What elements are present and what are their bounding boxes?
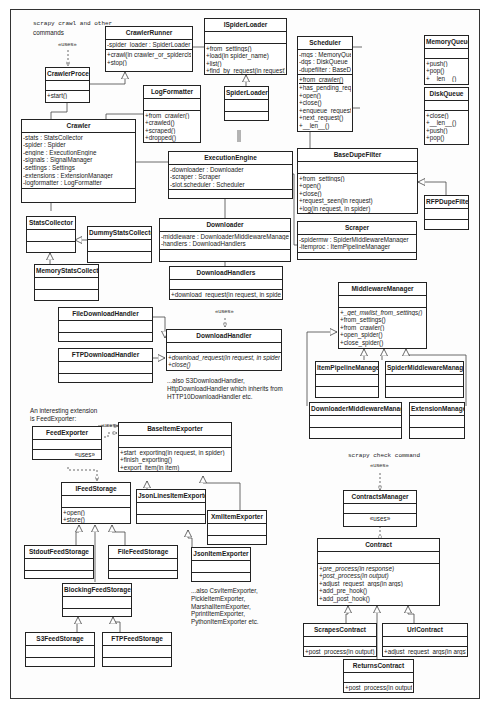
class-ispider-loader[interactable]: ISpiderLoader +from_settings() +load(in … [204, 18, 287, 75]
class-scraper[interactable]: Scraper -spidermw : SpiderMiddlewareMana… [297, 221, 417, 260]
class-contract[interactable]: Contract +pre_process(in response) +post… [317, 538, 440, 606]
class-execution-engine[interactable]: ExecutionEngine -downloader : Downloader… [168, 151, 293, 199]
class-crawler-process[interactable]: CrawlerProcess +start() [45, 67, 90, 103]
class-base-dupe-filter[interactable]: BaseDupeFilter +from_settings() +open() … [297, 148, 418, 214]
stereotype-uses-top: «uses» [100, 422, 119, 428]
op-load: +load(in spider_name) [206, 52, 285, 60]
note-feed-exporter: An interesting extension is FeedExporter… [30, 407, 97, 423]
class-file-download-handler[interactable]: FileDownloadHandler [58, 307, 153, 342]
note-crawl-command: scrapy crawl and other [33, 20, 112, 28]
class-spider-loader[interactable]: SpiderLoader [224, 86, 269, 121]
class-scrapes-contract[interactable]: ScrapesContract +post_process(in output) [303, 623, 377, 657]
class-dummy-stats-collector[interactable]: DummyStatsCollector [87, 226, 152, 263]
note-crawl-commands-2: commands [33, 29, 64, 37]
class-json-lines-item-exporter[interactable]: JsonLinesItemExporter [136, 489, 206, 524]
class-ftp-download-handler[interactable]: FTPDownloadHandler [58, 348, 153, 383]
class-log-formatter[interactable]: LogFormatter +from_crawler() +crawled() … [143, 85, 201, 143]
class-stats-collector[interactable]: StatsCollector [26, 216, 76, 253]
class-crawler[interactable]: Crawler -stats : StatsCollector -spider … [21, 119, 136, 203]
class-rfp-dupe-filter[interactable]: RFPDupeFilter [424, 195, 469, 230]
class-s3-feed-storage[interactable]: S3FeedStorage [25, 632, 95, 667]
op-list: +list() [206, 60, 285, 68]
note-s3-download-handler: ...also S3DownloadHandler, HttpDownloadH… [167, 377, 283, 400]
stereotype-uses-downloadhandler: «uses» [215, 308, 234, 314]
class-url-contract[interactable]: UrlContract +adjust_request_args(in args… [382, 623, 468, 657]
class-middleware-manager[interactable]: MiddlewareManager +_get_mwlist_from_sett… [338, 282, 427, 349]
class-ftp-feed-storage[interactable]: FTPFeedStorage [102, 632, 172, 667]
note-other-exporters: ...also CsvItemExporter, PickleItemExpor… [191, 587, 259, 626]
class-blocking-feed-storage[interactable]: BlockingFeedStorage [62, 583, 132, 617]
stereotype-uses: «uses» [58, 41, 77, 47]
attr-spider-loader: -spider_loader : SpiderLoader [107, 41, 191, 49]
class-downloader-middleware-manager[interactable]: DownloaderMiddlewareManager [309, 402, 402, 439]
class-stdout-feed-storage[interactable]: StdoutFeedStorage [24, 545, 94, 579]
class-download-handlers[interactable]: DownloadHandlers +download_request(in re… [169, 266, 283, 300]
class-scheduler[interactable]: Scheduler -mqs : MemoryQueue -dqs : Disk… [297, 36, 353, 132]
class-feed-exporter[interactable]: FeedExporter «uses» [32, 426, 102, 460]
op-crawl: +crawl(in crawler_or_spidercls) [107, 51, 191, 59]
class-downloader[interactable]: Downloader -middleware : DownloaderMiddl… [159, 218, 291, 262]
class-file-feed-storage[interactable]: FileFeedStorage [108, 545, 178, 579]
class-item-pipeline-manager[interactable]: ItemPipelineManager [315, 361, 379, 398]
class-ifeed-storage[interactable]: IFeedStorage +open() +store() [61, 482, 131, 524]
note-check-command: scrapy check command [348, 452, 420, 460]
class-download-handler[interactable]: DownloadHandler +download_request(in req… [166, 329, 282, 371]
class-returns-contract[interactable]: ReturnsContract +post_process(in output) [343, 659, 414, 693]
class-memory-queue[interactable]: MemoryQueue +push() +pop() +__len__() [424, 35, 469, 85]
class-base-item-exporter[interactable]: BaseItemExporter +start_exporting(in req… [118, 422, 232, 472]
op-from-settings: +from_settings() [206, 45, 285, 53]
class-disk-queue[interactable]: DiskQueue +close() +__len__() +push() +p… [424, 87, 469, 145]
stereotype-uses-check: «uses» [370, 462, 389, 468]
op-stop: +stop() [107, 59, 191, 67]
class-xml-item-exporter[interactable]: XmlItemExporter [207, 510, 267, 545]
class-json-item-exporter[interactable]: JsonItemExporter [191, 547, 251, 582]
op-find-by-request: +find_by_request(in request) [206, 67, 285, 75]
class-extension-manager[interactable]: ExtensionManager [409, 402, 465, 439]
class-memory-stats-collector[interactable]: MemoryStatsCollector [34, 264, 99, 301]
class-crawler-runner[interactable]: CrawlerRunner -spider_loader : SpiderLoa… [105, 26, 193, 72]
class-contracts-manager[interactable]: ContractsManager «uses» [343, 490, 417, 527]
class-spider-middleware-manager[interactable]: SpiderMiddlewareManager [385, 361, 464, 398]
